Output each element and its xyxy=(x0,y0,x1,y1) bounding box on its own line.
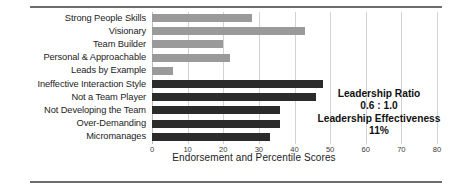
leadership-ratio-label: Leadership Ratio xyxy=(300,88,458,100)
bar-label: Not a Team Player xyxy=(71,93,146,102)
x-axis-title-text: Endorsement and Percentile Scores xyxy=(172,152,335,163)
bar xyxy=(152,80,323,88)
bar-row: Visionary xyxy=(152,25,437,38)
bar-label: Not Developing the Team xyxy=(44,106,146,115)
bottom-divider xyxy=(30,181,442,183)
bar xyxy=(152,40,223,48)
bar-label: Personal & Approachable xyxy=(43,54,146,63)
bar-row: Team Builder xyxy=(152,38,437,51)
bar xyxy=(152,133,270,141)
leadership-annotation: Leadership Ratio 0.6 : 1.0 Leadership Ef… xyxy=(300,88,458,138)
bar-row: Personal & Approachable xyxy=(152,52,437,65)
chart-page: Strong People SkillsVisionaryTeam Builde… xyxy=(0,0,466,189)
bar xyxy=(152,14,252,22)
bar-label: Leads by Example xyxy=(71,67,146,76)
bar xyxy=(152,120,280,128)
bar-label: Ineffective Interaction Style xyxy=(37,80,146,89)
bar-row: Strong People Skills xyxy=(152,12,437,25)
leadership-ratio-value: 0.6 : 1.0 xyxy=(300,100,458,112)
bar xyxy=(152,106,280,114)
bar-label: Strong People Skills xyxy=(65,14,146,23)
bar xyxy=(152,93,316,101)
leadership-effectiveness-label: Leadership Effectiveness xyxy=(300,113,458,125)
bar xyxy=(152,67,173,75)
bar-row: Leads by Example xyxy=(152,65,437,78)
x-axis-title: Endorsement and Percentile Scores xyxy=(0,152,466,163)
bar-label: Visionary xyxy=(109,27,146,36)
bar-label: Micromanages xyxy=(86,133,146,142)
bar xyxy=(152,54,230,62)
bar-label: Team Builder xyxy=(93,40,146,49)
leadership-effectiveness-value: 11% xyxy=(300,125,458,137)
bar-label: Over-Demanding xyxy=(77,119,146,128)
top-divider xyxy=(30,6,442,8)
bar xyxy=(152,27,305,35)
